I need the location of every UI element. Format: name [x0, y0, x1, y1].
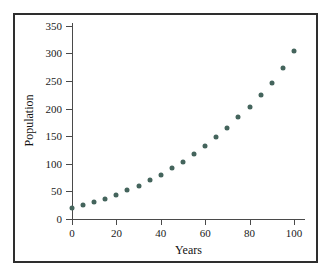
figure-root: 050100150200250300350 020406080100 Popul…: [0, 0, 332, 277]
figure-border: [13, 13, 318, 263]
